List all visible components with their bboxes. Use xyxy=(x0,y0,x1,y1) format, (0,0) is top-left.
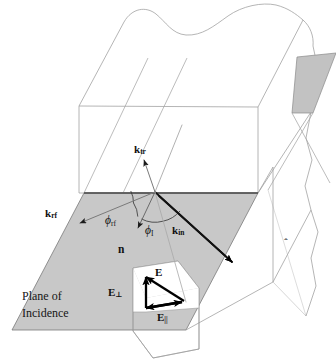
plane-label-line-1: Plane of xyxy=(22,288,69,305)
label-e-parallel: E|| xyxy=(157,312,168,324)
label-plane-of-incidence: Plane of Incidence xyxy=(22,288,69,322)
label-e-total: E xyxy=(155,267,162,278)
plane-exit-wedge xyxy=(292,53,336,113)
block-right-lower-profile xyxy=(305,112,312,210)
block-right-upper-fold xyxy=(258,112,311,193)
e-field-plane xyxy=(133,261,199,358)
label-normal-vector: ˆn xyxy=(118,244,336,256)
label-e-perp: E⊥ xyxy=(108,287,123,299)
block-right-far-profile xyxy=(306,210,318,316)
block-top-left-receding-edge xyxy=(79,22,124,106)
block-front-top-edge xyxy=(79,106,258,107)
block-right-bottom-fold xyxy=(258,167,273,193)
plane-exit-lines xyxy=(268,113,330,316)
label-k-transmitted: ktr xyxy=(134,144,146,156)
block-top-wavy-edge xyxy=(124,4,303,35)
label-k-reflected: krf xyxy=(45,208,57,220)
figure-root: ktr krf kin ϕrf ϕI ˆn E E⊥ E|| Plane of … xyxy=(0,0,336,359)
plane-exit-lower-line-a xyxy=(292,113,330,183)
label-phi-reflected: ϕrf xyxy=(105,215,116,227)
plane-exit-lower-line-b xyxy=(268,113,313,190)
plane-extension-lines xyxy=(84,58,187,193)
label-k-incident: kin xyxy=(172,225,184,237)
ray-k-tr xyxy=(144,160,155,192)
plane-cut-right-line xyxy=(123,58,187,193)
label-phi-incident: ϕI xyxy=(145,225,153,237)
plane-label-line-2: Incidence xyxy=(22,305,69,322)
ray-continuation xyxy=(155,125,182,192)
